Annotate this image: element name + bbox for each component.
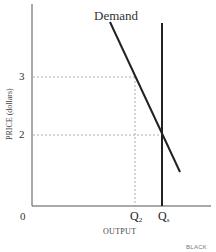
- y-axis-label: PRICE (dollars): [6, 88, 14, 140]
- x-tick-q2-sub: 2: [139, 216, 143, 224]
- x-tick-q2: Q2: [130, 210, 142, 224]
- diagram-canvas: [0, 0, 216, 252]
- demand-label: Demand: [94, 9, 138, 22]
- x-tick-q2-main: Q: [130, 209, 139, 223]
- demand-curve: [110, 22, 180, 172]
- x-tick-qs-main: Q: [158, 209, 167, 223]
- x-tick-qs: Qs: [158, 210, 169, 224]
- credit-label: BLACK: [186, 244, 207, 250]
- x-tick-qs-sub: s: [167, 216, 170, 224]
- y-tick-3: 3: [19, 71, 25, 82]
- x-axis-label: OUTPUT: [103, 228, 136, 236]
- origin-label: 0: [20, 211, 26, 222]
- y-tick-2: 2: [19, 129, 25, 140]
